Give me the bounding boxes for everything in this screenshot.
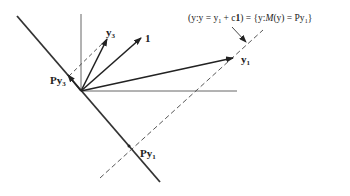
projection-diagram: y3 1 y1 Py3 Py1 (y:y = y1 + c1) = {y:M(y… (0, 0, 350, 196)
point-Py1 (128, 145, 131, 148)
vector-one (81, 38, 141, 91)
label-y3: y3 (106, 26, 116, 40)
vector-y1 (81, 58, 233, 91)
label-Py1: Py1 (140, 147, 156, 161)
y3-projection-dashed-line (69, 40, 106, 76)
label-affine-set-equation: (y:y = y1 + c1) = {y:M(y) = Py1} (188, 13, 312, 24)
label-one: 1 (145, 32, 151, 44)
vector-y3 (81, 39, 107, 91)
label-y1: y1 (241, 53, 251, 67)
vector-Py3 (68, 75, 81, 91)
label-Py3: Py3 (50, 74, 66, 88)
set-label-pointer (232, 27, 246, 42)
diagram-canvas: y3 1 y1 Py3 Py1 (y:y = y1 + c1) = {y:M(y… (0, 0, 350, 196)
